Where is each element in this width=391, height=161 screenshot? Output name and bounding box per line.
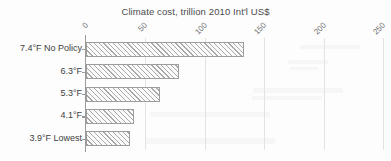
bar[interactable] (86, 87, 160, 102)
bar[interactable] (86, 64, 179, 79)
chart-title: Climate cost, trillion 2010 Int'l US$ (0, 6, 391, 17)
y-axis-category-label: 3.9°F Lowest (2, 133, 82, 143)
y-axis-category-label: 5.3°F (2, 88, 82, 98)
y-axis-labels: 7.4°F No Policy6.3°F5.3°F4.1°F3.9°F Lowe… (0, 38, 82, 150)
bar[interactable] (86, 109, 134, 124)
gridline (383, 38, 384, 150)
y-axis-tick-mark (82, 49, 86, 50)
bar-row (86, 109, 383, 124)
y-axis-tick-mark (82, 72, 86, 73)
bar-row (86, 64, 383, 79)
y-axis-category-label: 6.3°F (2, 66, 82, 76)
y-axis-tick-mark (82, 116, 86, 117)
bar[interactable] (86, 131, 130, 146)
bar-row (86, 87, 383, 102)
y-axis-tick-mark (82, 139, 86, 140)
y-axis-tick-mark (82, 94, 86, 95)
y-axis-category-label: 4.1°F (2, 110, 82, 120)
bar-row (86, 131, 383, 146)
bar-chart: Climate cost, trillion 2010 Int'l US$ 7.… (0, 0, 391, 161)
bar[interactable] (86, 42, 244, 57)
